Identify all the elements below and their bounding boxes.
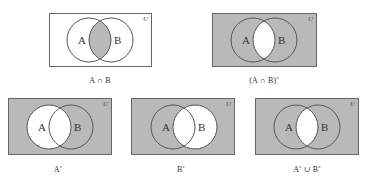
caption-b-complement: Bc: [177, 165, 185, 174]
caption-superscript: c: [60, 164, 62, 169]
set-b-label: B: [198, 121, 205, 133]
set-b-label: B: [114, 34, 121, 46]
venn-diagram-complement-of-a-intersect-b: A B U: [212, 13, 317, 67]
caption-superscript: c: [276, 75, 278, 80]
venn-svg: A B U: [212, 13, 317, 67]
set-b-label: B: [74, 121, 81, 133]
caption-superscript-2: c: [318, 164, 320, 169]
venn-diagram-b-complement: A B U: [131, 98, 235, 155]
set-b-label: B: [278, 34, 285, 46]
set-a-label: A: [285, 121, 293, 133]
venn-svg: A B U: [49, 13, 152, 67]
set-b-label: B: [321, 121, 328, 133]
caption-complement-of-a-intersect-b: (A ∩ B)c: [249, 76, 279, 85]
set-a-label: A: [78, 34, 86, 46]
caption-union-text: ∪ B: [302, 165, 319, 174]
venn-diagram-a-complement: A B U: [8, 98, 112, 155]
caption-text: (A ∩ B): [249, 76, 276, 85]
venn-svg: A B U: [255, 98, 359, 155]
venn-svg: A B U: [131, 98, 235, 155]
caption-superscript: c: [183, 164, 185, 169]
caption-text: A ∩ B: [89, 76, 110, 85]
caption-a-complement-union-b-complement: Ac ∪ Bc: [293, 165, 321, 174]
venn-diagram-a-intersect-b: A B U: [49, 13, 152, 67]
set-a-label: A: [242, 34, 250, 46]
venn-diagram-a-complement-union-b-complement: A B U: [255, 98, 359, 155]
set-a-label: A: [38, 121, 46, 133]
venn-svg: A B U: [8, 98, 112, 155]
caption-a-intersect-b: A ∩ B: [89, 76, 110, 85]
caption-a-complement: Ac: [54, 165, 62, 174]
set-a-label: A: [162, 121, 170, 133]
